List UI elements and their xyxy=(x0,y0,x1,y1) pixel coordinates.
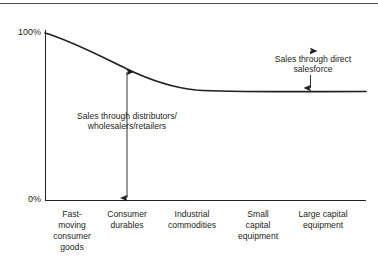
chart-figure: 100% 0% Sales through distributors/ whol… xyxy=(0,0,378,266)
annotation-sales-through-distributors: Sales through distributors/ wholesalers/… xyxy=(52,111,202,132)
x-axis-category-label-industrial-commodities: Industrial commodities xyxy=(154,209,230,231)
x-axis-category-label-consumer-durables: Consumer durables xyxy=(96,209,158,231)
x-axis-category-label-fast-moving-consumer-goods: Fast- moving consumer goods xyxy=(42,209,102,253)
annotation-sales-through-direct-salesforce: Sales through direct salesforce xyxy=(257,54,369,75)
x-axis-category-label-large-capital-equipment: Large capital equipment xyxy=(280,209,366,231)
